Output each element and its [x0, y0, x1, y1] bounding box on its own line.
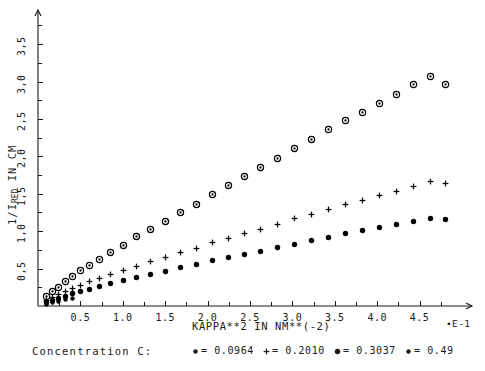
data-point-dot [443, 217, 448, 222]
data-point-circle-center [412, 83, 414, 85]
y-tick-label: 0,5 [16, 261, 27, 281]
data-point-circle-center [149, 228, 151, 230]
legend-marker-dot-icon [332, 346, 341, 356]
data-point-circle-center [310, 138, 312, 140]
data-point-dot [226, 255, 231, 260]
data-point-dot [394, 222, 399, 227]
y-tick-label: 3,0 [16, 74, 27, 94]
data-point-dot [428, 216, 433, 221]
legend: Concentration C: = 0.0964= 0.2010= 0.303… [32, 345, 482, 361]
data-point-circle-center [57, 286, 59, 288]
data-point-dot [292, 242, 297, 247]
data-point-circle-center [243, 175, 245, 177]
data-point-circle-center [179, 211, 181, 213]
data-point-dot [377, 225, 382, 230]
data-point-dot [309, 238, 314, 243]
data-point-circle-center [378, 102, 380, 104]
data-point-dot [70, 291, 75, 296]
x-tick-label: 0.5 [71, 312, 91, 323]
data-point-dot [108, 281, 113, 286]
data-series-0 [43, 73, 448, 299]
data-point-dot-small [193, 349, 197, 353]
x-tick-label: 2.5 [240, 312, 260, 323]
data-point-dot [210, 258, 215, 263]
data-point-circle-center [71, 275, 73, 277]
legend-entry-label: = 0.2010 [272, 345, 325, 356]
data-point-dot-small [63, 297, 67, 301]
data-point-dot [326, 235, 331, 240]
data-point-circle-center [259, 166, 261, 168]
y-tick-label: 1,5 [16, 186, 27, 206]
data-point-dot [178, 265, 183, 270]
legend-entry-label: = 0.0964 [201, 345, 254, 356]
x-tick-label: 1.5 [155, 312, 175, 323]
data-series-2 [44, 216, 448, 305]
x-axis-exponent-note: •E-1 [446, 318, 470, 329]
data-point-circle-center [98, 258, 100, 260]
data-point-dot [343, 231, 348, 236]
data-point-dot [335, 348, 340, 353]
data-point-circle-center [88, 264, 90, 266]
data-point-dot-small [50, 300, 54, 304]
x-tick-label: 2.0 [198, 312, 218, 323]
legend-entry-label: = 0.3037 [343, 345, 396, 356]
data-point-dot [121, 278, 126, 283]
x-tick-label: 3.5 [325, 312, 345, 323]
legend-title: Concentration C: [32, 345, 152, 357]
x-tick-label: 4.0 [367, 312, 387, 323]
legend-marker-circle-dot-icon [190, 346, 199, 356]
data-point-circle-center [195, 203, 197, 205]
data-point-circle-center [45, 295, 47, 297]
legend-entry: = 0.3037 [332, 345, 396, 356]
data-point-dot [242, 252, 247, 257]
data-point-dot-small [56, 299, 60, 303]
data-point-circle-center [293, 147, 295, 149]
x-tick-label: 1.0 [113, 312, 133, 323]
data-point-circle-center [361, 111, 363, 113]
y-tick-label: 1,0 [16, 224, 27, 244]
data-point-circle-center [122, 244, 124, 246]
x-tick-label: 3.0 [283, 312, 303, 323]
legend-entries: = 0.0964= 0.2010= 0.3037= 0.49 [190, 345, 461, 356]
y-tick-label: 3,5 [16, 37, 27, 57]
data-point-dot [134, 275, 139, 280]
data-point-circle-center [79, 269, 81, 271]
data-point-dot [148, 272, 153, 277]
data-point-circle-center [327, 128, 329, 130]
data-point-circle-center [227, 184, 229, 186]
data-point-circle-center [51, 290, 53, 292]
legend-entry-label: = 0.49 [414, 345, 454, 356]
data-point-circle-center [135, 235, 137, 237]
legend-marker-plus-icon [261, 346, 270, 356]
x-tick-label: 4.5 [410, 312, 430, 323]
data-point-circle-center [429, 75, 431, 77]
data-series-1 [44, 179, 449, 304]
data-point-circle-center [276, 157, 278, 159]
legend-entry: = 0.0964 [190, 345, 254, 356]
data-point-circle-center [444, 83, 446, 85]
data-point-circle-center [164, 220, 166, 222]
data-point-dot [78, 289, 83, 294]
data-point-dot [163, 269, 168, 274]
data-point-dot [275, 245, 280, 250]
y-axis-title-prefix: 1/I [6, 203, 18, 225]
data-point-circle-center [395, 93, 397, 95]
data-point-dot-small [70, 296, 74, 300]
data-point-dot-small [406, 349, 410, 353]
scientific-plot-page: 1/IRED IN CM KAPPA**2 IN NM**(-2) •E-1 C… [0, 0, 485, 371]
data-point-dot [411, 219, 416, 224]
data-point-circle-center [64, 280, 66, 282]
data-point-dot [360, 228, 365, 233]
legend-entry: = 0.2010 [261, 345, 325, 356]
data-point-circle-center [109, 251, 111, 253]
data-point-dot [258, 249, 263, 254]
data-point-circle-center [211, 193, 213, 195]
data-point-dot [97, 284, 102, 289]
y-tick-label: 2,5 [16, 111, 27, 131]
data-point-dot [194, 262, 199, 267]
data-point-circle-center [344, 119, 346, 121]
legend-entry: = 0.49 [403, 345, 454, 356]
data-point-dot [87, 287, 92, 292]
data-point-dot-small [44, 302, 48, 306]
y-tick-label: 2,0 [16, 149, 27, 169]
